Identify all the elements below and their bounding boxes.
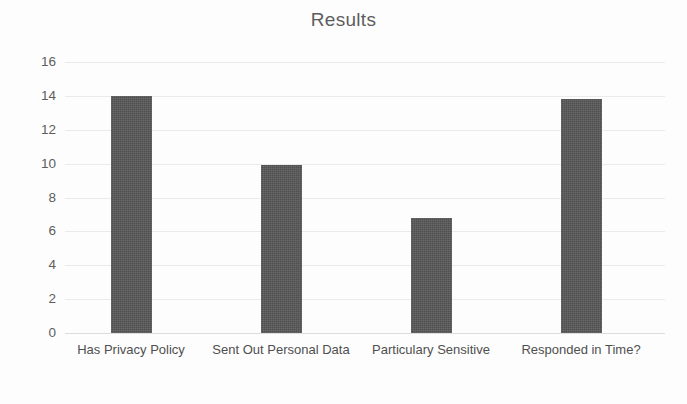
bar [411, 218, 452, 333]
y-axis-tick-label: 6 [22, 225, 56, 239]
bar [561, 99, 602, 333]
y-axis-tick-label: 0 [22, 326, 56, 340]
bar [111, 96, 152, 333]
y-axis-tick-label: 4 [22, 259, 56, 273]
y-axis-tick-label: 12 [22, 123, 56, 137]
x-axis-category-labels: Has Privacy PolicySent Out Personal Data… [65, 340, 665, 400]
y-axis-tick-label: 2 [22, 292, 56, 306]
x-axis-category-label: Sent Out Personal Data [206, 340, 356, 359]
gridline [65, 62, 665, 63]
y-axis-tick-label: 8 [22, 191, 56, 205]
x-axis-category-label: Responded in Time? [506, 340, 656, 359]
gridline [65, 96, 665, 97]
plot-area [65, 62, 665, 333]
y-axis-tick-labels: 0246810121416 [0, 62, 56, 333]
gridline [65, 333, 665, 334]
chart-title: Results [0, 9, 687, 31]
y-axis-tick-label: 16 [22, 55, 56, 69]
bar [261, 165, 302, 333]
bar-chart: Results 0246810121416 Has Privacy Policy… [0, 0, 687, 404]
x-axis-category-label: Particulary Sensitive [356, 340, 506, 359]
x-axis-category-label: Has Privacy Policy [56, 340, 206, 359]
y-axis-tick-label: 14 [22, 89, 56, 103]
y-axis-tick-label: 10 [22, 157, 56, 171]
